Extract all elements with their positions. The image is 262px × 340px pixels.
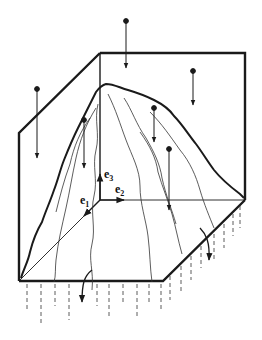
e2-label: e2: [115, 182, 124, 198]
e3-label: e3: [104, 167, 113, 183]
back-panel-edge: [100, 53, 245, 200]
incoming-arrow: [35, 87, 40, 158]
dashed-drip-lines: [27, 206, 240, 325]
incoming-arrow: [191, 69, 196, 105]
incoming-arrow: [124, 19, 129, 68]
front-bottom-edge: [19, 200, 245, 281]
outgoing-arrows: [82, 228, 209, 302]
outgoing-arrow-front: [82, 270, 92, 302]
incoming-arrow: [152, 106, 157, 142]
floor-lines: [19, 200, 245, 281]
e1-label: e1: [80, 193, 89, 209]
diagram-canvas: e3 e2 e1: [0, 0, 262, 340]
surface-streamlines: [54, 94, 214, 290]
